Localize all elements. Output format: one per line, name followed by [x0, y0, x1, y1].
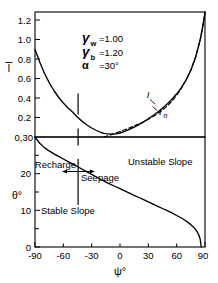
gamma-b-value: =1.20 — [99, 47, 123, 58]
upper-y-tick-label-0_2: 0.2 — [18, 112, 31, 123]
gamma-b-subscript: b — [91, 53, 96, 62]
gamma-w-subscript: w — [90, 39, 97, 48]
seepage-label: Seepage — [81, 172, 119, 183]
unstable-slope-label: Unstable Slope — [128, 156, 192, 167]
x-tick-label-0: 0 — [117, 250, 122, 261]
x-tick-label-60: 60 — [171, 250, 182, 261]
figure-svg: 1.2 1.0 0.8 0.6 0.4 0.2 0,30 I I I n γ — [0, 0, 218, 283]
x-tick-label--90: -90 — [28, 250, 42, 261]
alpha-line: α =30° — [82, 59, 119, 71]
recharge-label: Recharge — [35, 159, 76, 170]
alpha-value: =30° — [99, 60, 119, 71]
x-tick-label-90: 90 — [198, 250, 209, 261]
upper-y-axis-label-text: I — [8, 63, 11, 74]
gamma-w-value: =1.00 — [99, 33, 123, 44]
upper-y-tick-label-0_8: 0.8 — [18, 54, 31, 65]
seepage-annotation: Seepage — [79, 170, 119, 183]
upper-y-tick-label-0_6: 0.6 — [18, 73, 31, 84]
upper-y-tick-label-1_0: 1.0 — [18, 34, 31, 45]
curve-label-In-base: I — [159, 106, 162, 117]
parameter-annotation-block: γ w =1.00 γ b =1.20 α =30° — [82, 30, 123, 71]
lower-y-tick-label-10: 10 — [20, 205, 31, 216]
x-tick-label--30: -30 — [85, 250, 99, 261]
x-axis-label: ψ° — [114, 265, 126, 277]
lower-y-axis-label: θ° — [12, 189, 22, 201]
x-tick-label-30: 30 — [143, 250, 154, 261]
lower-y-tick-label-20: 20 — [20, 168, 31, 179]
stable-slope-label: Stable Slope — [41, 205, 95, 216]
upper-y-baseline-label: 0,30 — [15, 132, 34, 143]
curve-label-In-subscript: n — [164, 112, 168, 119]
upper-y-tick-label-1_2: 1.2 — [18, 15, 31, 26]
alpha-symbol: α — [82, 59, 89, 71]
figure-container: 1.2 1.0 0.8 0.6 0.4 0.2 0,30 I I I n γ — [0, 0, 218, 283]
x-tick-label--60: -60 — [56, 250, 70, 261]
curve-label-I: I — [147, 89, 150, 100]
upper-y-tick-label-0_4: 0.4 — [18, 93, 31, 104]
